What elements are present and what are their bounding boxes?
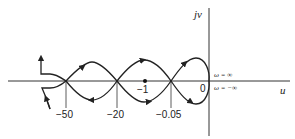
curve-loop-1-lower (66, 81, 117, 100)
nyquist-diagram (0, 0, 295, 139)
real-axis-label: u (280, 85, 286, 96)
imaginary-axis-label: jv (194, 9, 202, 20)
tick-label-neg1: −1 (137, 85, 148, 95)
curve-loop-2-upper (117, 60, 171, 81)
curve-tail-lower (42, 81, 66, 109)
curve-loop-3-upper (171, 58, 209, 81)
omega-neg-infinity-label: ω = −∞ (214, 85, 237, 92)
omega-pos-infinity-label: ω = ∞ (214, 72, 232, 79)
tick-label-zero: 0 (200, 84, 206, 94)
arrow-tail-lower (46, 98, 50, 109)
tick-label-neg50: −50 (56, 110, 73, 120)
curve-loop-1-upper (66, 62, 117, 81)
curve-tail-upper (41, 58, 66, 81)
critical-point-dot (143, 79, 147, 83)
tick-label-neg20: −20 (107, 110, 124, 120)
arrow-2u (141, 60, 143, 61)
tick-label-neg005: −0.05 (156, 110, 181, 120)
